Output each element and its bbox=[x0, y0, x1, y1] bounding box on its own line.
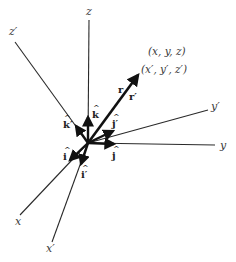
k-prime-hat-arrow bbox=[76, 126, 88, 143]
y-axis-label: y bbox=[219, 139, 227, 152]
y-prime-axis bbox=[88, 110, 208, 143]
coordinate-frames-diagram: zz′y′yxx′ ^k^k′^j′^j^i^i′ r r′ (x, y, z)… bbox=[0, 0, 236, 262]
r-prime-label: r′ bbox=[129, 91, 137, 102]
unit-vectors: ^k^k′^j′^j^i^i′ bbox=[63, 103, 120, 180]
axes: zz′y′yxx′ bbox=[8, 5, 227, 255]
j-hat-arrow bbox=[88, 143, 114, 144]
z-prime-axis-label: z′ bbox=[8, 25, 18, 38]
point-coordinates: (x, y, z) (x′, y′, z′) bbox=[141, 45, 187, 75]
j-prime-hat-label: j′ bbox=[111, 118, 119, 129]
i-hat-label: i bbox=[63, 151, 67, 162]
i-prime-hat-label: i′ bbox=[81, 169, 88, 180]
k-prime-hat-label: k′ bbox=[63, 119, 73, 130]
k-hat-label: k bbox=[92, 109, 100, 120]
point-label-primed: (x′, y′, z′) bbox=[141, 63, 187, 75]
z-axis-label: z bbox=[85, 5, 92, 18]
point-label-unprimed: (x, y, z) bbox=[148, 45, 186, 57]
j-hat-label: j bbox=[111, 150, 116, 161]
x-axis-label: x bbox=[15, 215, 22, 228]
r-label: r bbox=[118, 84, 124, 95]
y-prime-axis-label: y′ bbox=[210, 100, 220, 113]
x-prime-axis-label: x′ bbox=[46, 242, 55, 255]
